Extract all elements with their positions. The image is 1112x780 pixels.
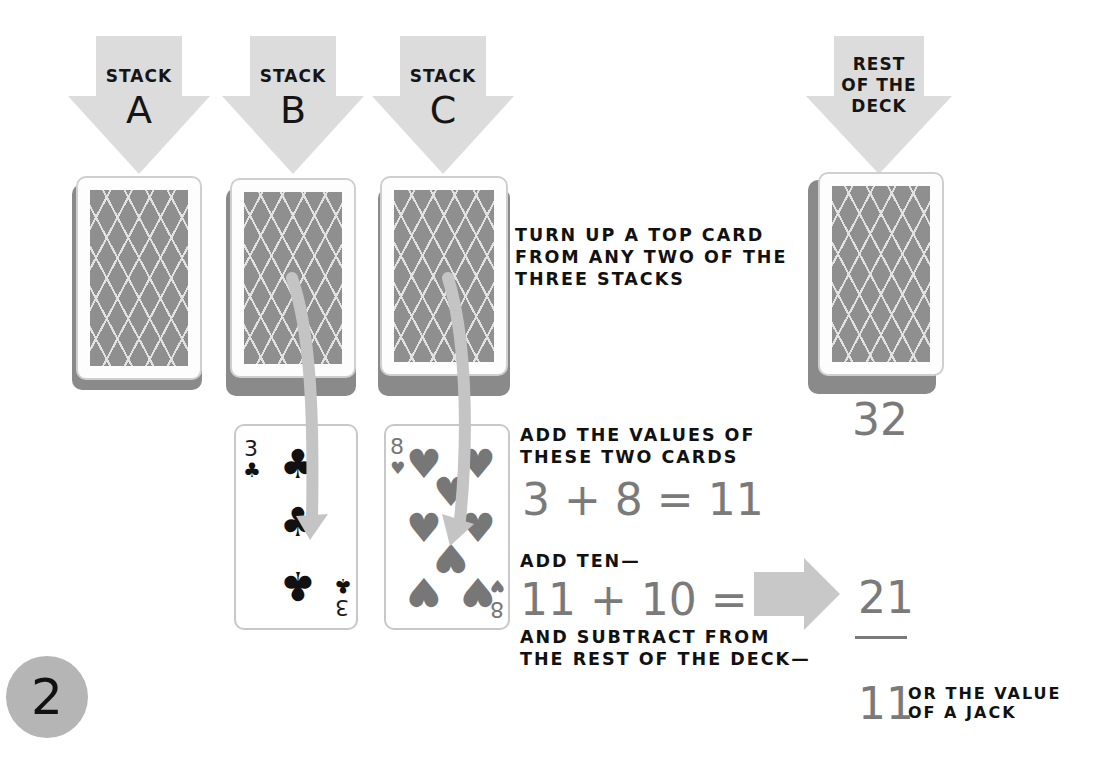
answer-note: OR THE VALUE OF A JACK [908, 684, 1062, 722]
card-back-pattern [832, 186, 930, 362]
equation-sum-cards: 3 + 8 = 11 [522, 478, 764, 522]
deck-label-line-3: DECK [806, 96, 952, 117]
stack-a-arrow: STACK A [68, 36, 210, 174]
instruction-line: THREE STACKS [515, 268, 787, 290]
card-back-pattern [90, 190, 188, 366]
subtrahend: 21 [858, 574, 914, 622]
instruction-turn-up: TURN UP A TOP CARD FROM ANY TWO OF THE T… [515, 224, 787, 290]
stack-b-arrow: STACK B [222, 36, 364, 174]
instruction-add-values: ADD THE VALUES OF THESE TWO CARDS [520, 424, 755, 468]
stack-b-label: STACK [222, 66, 364, 87]
instruction-line: TURN UP A TOP CARD [515, 224, 787, 246]
club-icon: ♣ [280, 566, 316, 606]
instruction-line: AND SUBTRACT FROM [520, 626, 811, 648]
deck-count: 32 [852, 396, 908, 444]
heart-icon: ♥ [490, 576, 505, 596]
stack-b-letter: B [222, 89, 364, 131]
instruction-add-ten: ADD TEN— [520, 550, 641, 572]
heart-icon: ♥ [390, 458, 405, 478]
step-number-badge: 2 [6, 656, 88, 738]
stack-c-label: STACK [372, 66, 514, 87]
rest-of-deck-card[interactable] [812, 172, 942, 388]
card-rank: 8 [390, 436, 404, 458]
club-icon: ♣ [243, 460, 261, 480]
deck-label-line-1: REST [806, 54, 952, 75]
stack-c-letter: C [372, 89, 514, 131]
instruction-line: THESE TWO CARDS [520, 446, 755, 468]
flip-arrow-c-icon [430, 270, 490, 570]
stack-a-card[interactable] [76, 176, 204, 386]
instruction-line: FROM ANY TWO OF THE [515, 246, 787, 268]
deck-arrow: REST OF THE DECK [806, 36, 952, 174]
subtraction-line [855, 636, 907, 639]
answer: 11 [858, 680, 914, 728]
instruction-line: ADD THE VALUES OF [520, 424, 755, 446]
stack-c-arrow: STACK C [372, 36, 514, 174]
instruction-subtract: AND SUBTRACT FROM THE REST OF THE DECK— [520, 626, 811, 670]
stack-a-label: STACK [68, 66, 210, 87]
answer-note-line: OR THE VALUE [908, 684, 1062, 703]
card-rank: 8 [490, 598, 504, 620]
flip-arrow-b-icon [270, 270, 330, 550]
heart-icon: ♥ [406, 572, 442, 612]
card-rank: 3 [244, 438, 258, 460]
step-number: 2 [31, 668, 63, 726]
right-arrow-icon [754, 558, 840, 634]
club-icon: ♣ [334, 576, 352, 596]
instruction-line: THE REST OF THE DECK— [520, 648, 811, 670]
deck-label-line-2: OF THE [806, 75, 952, 96]
answer-note-line: OF A JACK [908, 703, 1062, 722]
stack-a-letter: A [68, 89, 210, 131]
card-rank: 3 [335, 596, 349, 618]
